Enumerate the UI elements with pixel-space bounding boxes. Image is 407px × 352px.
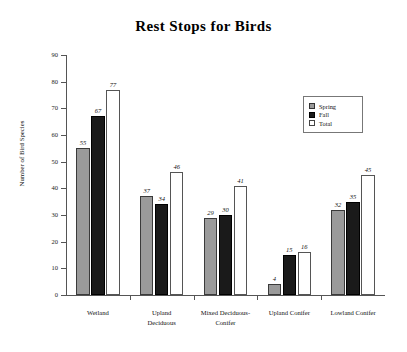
legend-label: Total <box>319 120 332 127</box>
y-axis-tick-label: 40 <box>18 184 58 191</box>
bar-total-1 <box>106 90 120 295</box>
y-axis-tick-label: 0 <box>18 291 58 298</box>
bar-value-label: 77 <box>100 81 126 88</box>
plot-area: 55677737344629304141516323545 <box>66 55 385 295</box>
bar-value-label: 16 <box>292 243 318 250</box>
legend-label: Spring <box>319 103 336 110</box>
bar-fall-2 <box>155 204 169 295</box>
bar-spring-2 <box>140 196 154 295</box>
legend-item-total: Total <box>309 120 357 127</box>
bar-spring-5 <box>331 210 345 295</box>
bar-total-3 <box>234 186 248 295</box>
bar-fall-1 <box>91 116 105 295</box>
x-axis-category-line: Lowland Conifer <box>308 308 398 318</box>
y-axis-tick-label: 70 <box>18 104 58 111</box>
bar-spring-3 <box>204 218 218 295</box>
bar-fall-5 <box>346 202 360 295</box>
bar-total-5 <box>361 175 375 295</box>
y-axis-tick-label: 30 <box>18 211 58 218</box>
chart-figure: Rest Stops for Birds Number of Bird Spec… <box>0 0 407 352</box>
x-axis-category-line: Conifer <box>181 318 271 328</box>
legend-swatch-icon <box>309 112 315 118</box>
x-axis-line <box>66 295 385 296</box>
x-axis-tick <box>321 295 322 300</box>
y-axis-tick-label: 80 <box>18 78 58 85</box>
x-axis-tick <box>130 295 131 300</box>
bar-value-label: 46 <box>164 163 190 170</box>
legend-swatch-icon <box>309 120 315 126</box>
bar-spring-4 <box>268 284 282 295</box>
bar-value-label: 45 <box>355 166 381 173</box>
y-axis-tick-label: 90 <box>18 51 58 58</box>
y-axis-tick <box>61 295 66 296</box>
bar-value-label: 41 <box>228 177 254 184</box>
legend-label: Fall <box>319 111 329 118</box>
chart-title: Rest Stops for Birds <box>0 18 407 35</box>
bar-fall-4 <box>283 255 297 295</box>
y-axis-tick-label: 10 <box>18 264 58 271</box>
x-axis-category-label: Lowland Conifer <box>308 308 398 318</box>
x-axis-tick <box>257 295 258 300</box>
bar-total-2 <box>170 172 184 295</box>
bar-spring-1 <box>76 148 90 295</box>
bar-fall-3 <box>219 215 233 295</box>
legend-swatch-icon <box>309 103 315 109</box>
x-axis-tick <box>194 295 195 300</box>
y-axis-title: Number of Bird Species <box>18 94 25 214</box>
y-axis-tick-label: 20 <box>18 238 58 245</box>
legend-item-fall: Fall <box>309 111 357 118</box>
bar-total-4 <box>298 252 312 295</box>
legend-item-spring: Spring <box>309 103 357 110</box>
bar-value-label: 37 <box>134 187 160 194</box>
y-axis-tick-label: 60 <box>18 131 58 138</box>
y-axis-tick-label: 50 <box>18 158 58 165</box>
chart-legend: SpringFallTotal <box>303 96 363 133</box>
